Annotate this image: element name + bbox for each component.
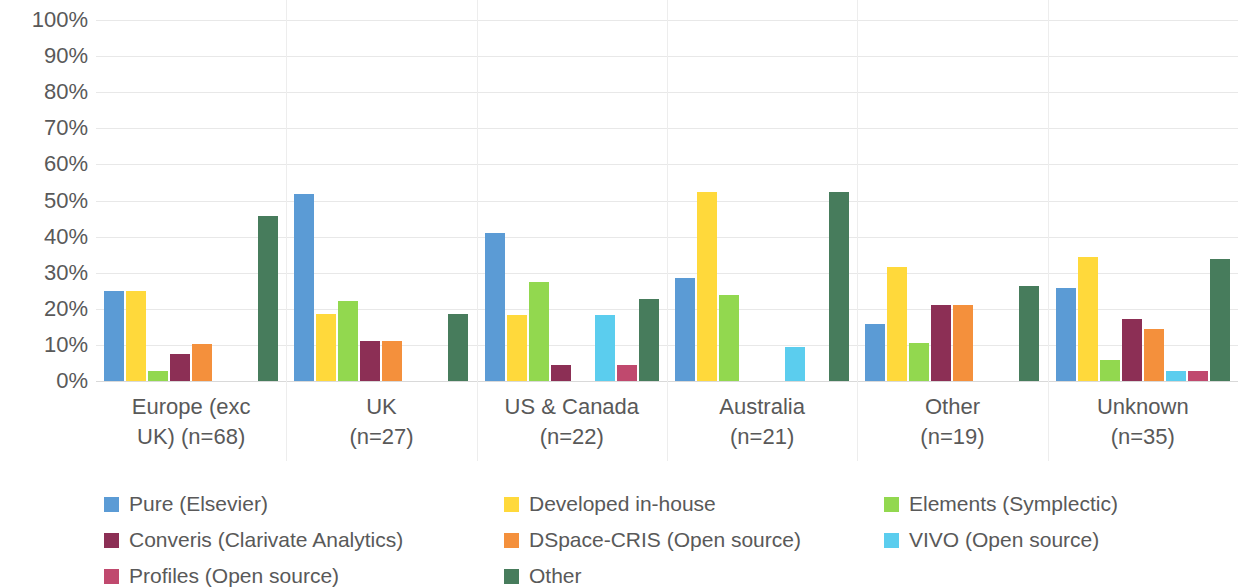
bar-slot bbox=[551, 20, 571, 381]
legend-color-swatch-icon bbox=[884, 497, 899, 512]
bar[interactable] bbox=[485, 233, 505, 381]
y-axis-tick-label: 20% bbox=[0, 298, 88, 320]
bar-slot bbox=[1210, 20, 1230, 381]
bar[interactable] bbox=[639, 299, 659, 381]
y-axis-tick-label: 100% bbox=[0, 9, 88, 31]
bar-slot bbox=[382, 20, 402, 381]
bar-slot bbox=[360, 20, 380, 381]
bar-slot bbox=[675, 20, 695, 381]
legend-color-swatch-icon bbox=[504, 533, 519, 548]
bar[interactable] bbox=[865, 324, 885, 381]
bar-slot bbox=[294, 20, 314, 381]
bar-slot bbox=[909, 20, 929, 381]
y-axis-tick-label: 90% bbox=[0, 45, 88, 67]
y-axis-tick-label: 50% bbox=[0, 190, 88, 212]
y-axis-tick-label: 80% bbox=[0, 81, 88, 103]
legend-label: Profiles (Open source) bbox=[129, 564, 339, 588]
bar[interactable] bbox=[126, 291, 146, 381]
bar-slot bbox=[763, 20, 783, 381]
bar-slot bbox=[1078, 20, 1098, 381]
bar-group bbox=[857, 20, 1047, 381]
bar[interactable] bbox=[258, 216, 278, 381]
bar-slot bbox=[887, 20, 907, 381]
bar[interactable] bbox=[1166, 371, 1186, 381]
bar[interactable] bbox=[617, 365, 637, 381]
bar[interactable] bbox=[507, 315, 527, 381]
bar[interactable] bbox=[338, 301, 358, 381]
bar[interactable] bbox=[595, 315, 615, 381]
legend-item[interactable]: Converis (Clarivate Analytics) bbox=[104, 528, 504, 552]
legend-item[interactable]: Elements (Symplectic) bbox=[884, 492, 1224, 516]
plot-area bbox=[96, 20, 1238, 381]
bar[interactable] bbox=[448, 314, 468, 381]
bar-slot bbox=[1019, 20, 1039, 381]
bar[interactable] bbox=[529, 282, 549, 381]
bar-slot bbox=[404, 20, 424, 381]
bar-slot bbox=[617, 20, 637, 381]
bar[interactable] bbox=[1078, 257, 1098, 381]
legend-label: Converis (Clarivate Analytics) bbox=[129, 528, 403, 552]
legend-color-swatch-icon bbox=[104, 497, 119, 512]
x-axis-label-line: Other bbox=[857, 392, 1047, 422]
bar[interactable] bbox=[785, 347, 805, 381]
bar[interactable] bbox=[719, 295, 739, 381]
bar-slot bbox=[1056, 20, 1076, 381]
legend-item[interactable]: Profiles (Open source) bbox=[104, 564, 504, 588]
chart-legend: Pure (Elsevier)Developed in-houseElement… bbox=[104, 486, 1224, 586]
legend-color-swatch-icon bbox=[104, 533, 119, 548]
bar[interactable] bbox=[1019, 286, 1039, 381]
x-axis-label-line: (n=21) bbox=[667, 422, 857, 452]
bar-slot bbox=[258, 20, 278, 381]
legend-color-swatch-icon bbox=[884, 533, 899, 548]
bar-slot bbox=[448, 20, 468, 381]
bar[interactable] bbox=[316, 314, 336, 381]
y-axis-tick-label: 60% bbox=[0, 153, 88, 175]
x-axis-label: Australia(n=21) bbox=[667, 392, 857, 468]
plot-wrapper: 0%10%20%30%40%50%60%70%80%90%100% bbox=[0, 0, 1242, 400]
bar[interactable] bbox=[170, 354, 190, 381]
x-axis-label-line: (n=35) bbox=[1048, 422, 1238, 452]
bar[interactable] bbox=[887, 267, 907, 381]
bar[interactable] bbox=[551, 365, 571, 381]
bar[interactable] bbox=[931, 305, 951, 381]
legend-item[interactable]: Pure (Elsevier) bbox=[104, 492, 504, 516]
bar-slot bbox=[1166, 20, 1186, 381]
bar[interactable] bbox=[192, 344, 212, 381]
bar[interactable] bbox=[953, 305, 973, 381]
bar[interactable] bbox=[1210, 259, 1230, 381]
bar-groups bbox=[96, 20, 1238, 381]
bar[interactable] bbox=[1144, 329, 1164, 381]
bar[interactable] bbox=[104, 291, 124, 381]
legend-item[interactable]: Developed in-house bbox=[504, 492, 884, 516]
bar[interactable] bbox=[382, 341, 402, 381]
x-axis-label-line: (n=27) bbox=[286, 422, 476, 452]
y-axis-tick-label: 30% bbox=[0, 262, 88, 284]
x-axis-label: Europe (excUK) (n=68) bbox=[96, 392, 286, 468]
bar-slot bbox=[316, 20, 336, 381]
bar[interactable] bbox=[1056, 288, 1076, 381]
bar-slot bbox=[426, 20, 446, 381]
bar[interactable] bbox=[675, 278, 695, 381]
bar[interactable] bbox=[697, 192, 717, 381]
bar[interactable] bbox=[1122, 319, 1142, 381]
bar-slot bbox=[236, 20, 256, 381]
legend-color-swatch-icon bbox=[104, 569, 119, 584]
legend-item[interactable]: VIVO (Open source) bbox=[884, 528, 1224, 552]
legend-item[interactable]: DSpace-CRIS (Open source) bbox=[504, 528, 884, 552]
x-axis-label: Unknown(n=35) bbox=[1048, 392, 1238, 468]
bar[interactable] bbox=[294, 194, 314, 381]
legend-label: VIVO (Open source) bbox=[909, 528, 1099, 552]
bar[interactable] bbox=[360, 341, 380, 381]
bar[interactable] bbox=[829, 192, 849, 381]
bar[interactable] bbox=[148, 371, 168, 381]
legend-label: DSpace-CRIS (Open source) bbox=[529, 528, 801, 552]
y-axis-tick-label: 10% bbox=[0, 334, 88, 356]
bar-slot bbox=[1122, 20, 1142, 381]
legend-label: Pure (Elsevier) bbox=[129, 492, 268, 516]
legend-item[interactable]: Other bbox=[504, 564, 884, 588]
bar-slot bbox=[529, 20, 549, 381]
bar[interactable] bbox=[909, 343, 929, 381]
x-axis-label-line: UK) (n=68) bbox=[96, 422, 286, 452]
bar[interactable] bbox=[1100, 360, 1120, 381]
bar[interactable] bbox=[1188, 371, 1208, 381]
